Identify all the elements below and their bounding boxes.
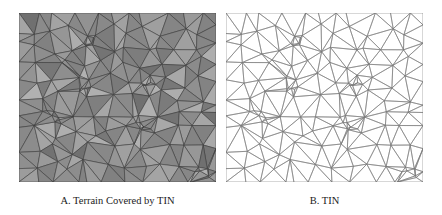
terrain-tin-mesh (19, 13, 216, 182)
tin-image (226, 13, 423, 182)
terrain-tin-image (19, 13, 216, 182)
caption-terrain-covered-by-tin: A. Terrain Covered by TIN (19, 195, 216, 206)
tin-mesh (226, 13, 423, 182)
caption-tin: B. TIN (226, 195, 423, 206)
